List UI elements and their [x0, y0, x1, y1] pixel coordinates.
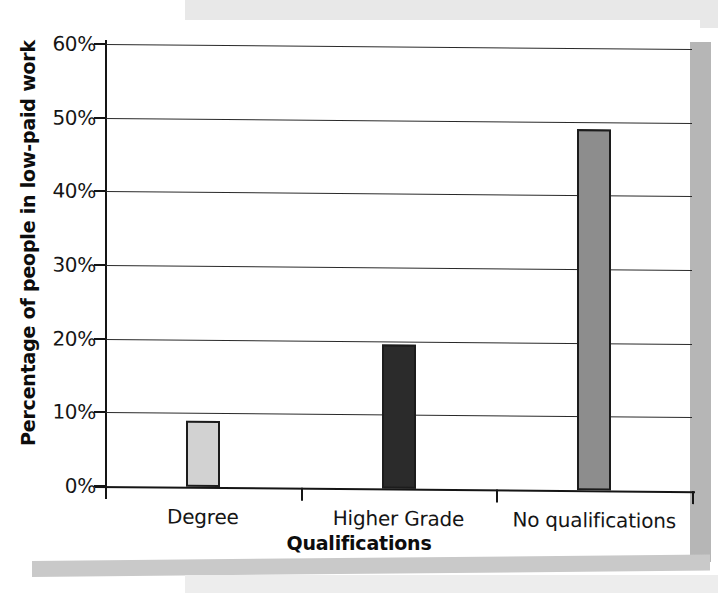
bar — [186, 420, 220, 487]
x-axis-category-label: No qualifications — [512, 508, 675, 533]
x-axis-title: Qualifications — [0, 532, 718, 554]
bar — [577, 129, 611, 490]
y-axis-title: Percentage of people in low-paid work — [17, 0, 39, 503]
plot-area: 0%10%20%30%40%50%60%DegreeHigher GradeNo… — [105, 44, 692, 491]
y-axis-tick-label: 20% — [52, 326, 96, 350]
y-axis-tick-label: 30% — [52, 253, 96, 277]
x-axis-category-label: Degree — [167, 505, 239, 530]
x-axis-tick — [692, 491, 694, 504]
bar — [382, 345, 416, 489]
y-axis-tick-label: 50% — [52, 105, 96, 129]
x-axis-tick — [496, 489, 498, 502]
y-axis-tick-label: 60% — [52, 32, 96, 56]
y-axis-tick-label: 10% — [52, 400, 96, 424]
x-axis-tick — [105, 486, 107, 499]
y-axis-tick-label: 0% — [65, 474, 96, 498]
y-axis-tick-label: 40% — [52, 179, 96, 203]
gridline — [105, 44, 692, 50]
bar-chart: Percentage of people in low-paid work 0%… — [0, 0, 718, 593]
x-axis-category-label: Higher Grade — [333, 506, 464, 531]
gridline — [105, 118, 692, 124]
x-axis-tick — [301, 488, 303, 501]
